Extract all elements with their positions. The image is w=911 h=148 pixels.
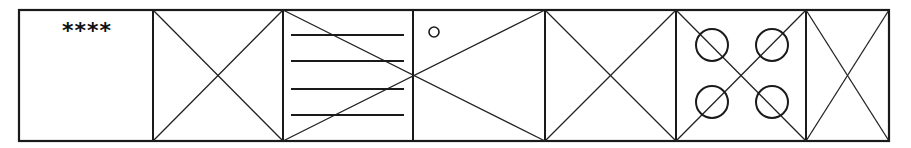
panel-2-cross (153, 10, 283, 141)
panel-5-cross (545, 10, 676, 141)
small-circle-icon (429, 27, 439, 37)
circle-icon (756, 86, 788, 118)
circle-icon (696, 86, 728, 118)
circle-icon (696, 29, 728, 61)
panel-3-horizontal-lines (291, 35, 404, 115)
panel-1-stars-label: **** (60, 20, 114, 42)
panel-6-cross (676, 10, 806, 141)
panel-7-cross (806, 10, 889, 141)
panel-strip-diagram (0, 0, 911, 148)
outer-frame (19, 10, 889, 141)
